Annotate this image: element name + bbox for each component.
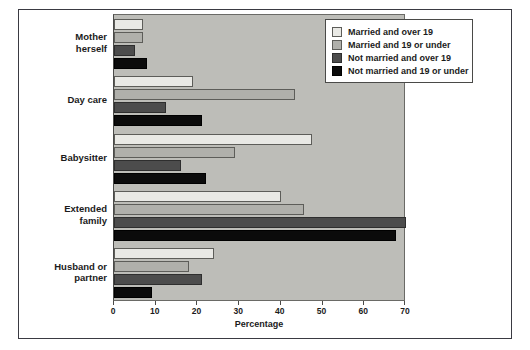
category-label: Extendedfamily	[17, 203, 107, 226]
x-tick-label: 40	[275, 306, 284, 316]
x-tick-label: 70	[400, 306, 409, 316]
bar	[114, 191, 281, 202]
category-axis-labels: MotherherselfDay careBabysitterExtendedf…	[14, 14, 107, 301]
x-tick-mark	[363, 301, 364, 305]
bar	[114, 173, 206, 184]
x-tick-mark	[404, 301, 405, 305]
bar	[114, 287, 152, 298]
bar	[114, 160, 181, 171]
legend-swatch-icon	[332, 27, 342, 37]
category-label: Motherherself	[17, 31, 107, 54]
bar	[114, 147, 235, 158]
category-label: Day care	[17, 94, 107, 106]
x-tick-label: 0	[111, 306, 116, 316]
bar	[114, 89, 295, 100]
bar	[114, 45, 135, 56]
x-tick-mark	[196, 301, 197, 305]
legend-item: Married and over 19	[332, 25, 466, 38]
x-tick-label: 60	[359, 306, 368, 316]
legend-swatch-icon	[332, 66, 342, 76]
legend-label: Not married and over 19	[348, 53, 451, 63]
x-tick-label: 20	[192, 306, 201, 316]
bar	[114, 217, 406, 228]
chart-figure: MotherherselfDay careBabysitterExtendedf…	[0, 0, 530, 350]
bar	[114, 76, 193, 87]
bar	[114, 261, 189, 272]
legend-swatch-icon	[332, 53, 342, 63]
legend-label: Married and over 19	[348, 27, 433, 37]
bar	[114, 204, 304, 215]
x-tick-mark	[238, 301, 239, 305]
x-tick-mark	[113, 301, 114, 305]
bar	[114, 134, 312, 145]
legend-item: Not married and over 19	[332, 51, 466, 64]
x-tick-label: 50	[317, 306, 326, 316]
bar	[114, 32, 143, 43]
bar	[114, 230, 396, 241]
bar	[114, 248, 214, 259]
x-tick-mark	[280, 301, 281, 305]
bar	[114, 274, 202, 285]
bar	[114, 102, 166, 113]
bar	[114, 58, 147, 69]
legend-label: Not married and 19 or under	[348, 66, 469, 76]
legend: Married and over 19 Married and 19 or un…	[325, 19, 473, 83]
x-tick-label: 10	[150, 306, 159, 316]
legend-item: Not married and 19 or under	[332, 64, 466, 77]
x-tick-mark	[322, 301, 323, 305]
bar	[114, 19, 143, 30]
x-axis-title: Percentage	[113, 319, 405, 329]
legend-label: Married and 19 or under	[348, 40, 451, 50]
category-label: Babysitter	[17, 152, 107, 164]
bar	[114, 115, 202, 126]
category-label: Husband orpartner	[17, 261, 107, 284]
x-tick-mark	[155, 301, 156, 305]
legend-swatch-icon	[332, 40, 342, 50]
legend-item: Married and 19 or under	[332, 38, 466, 51]
x-tick-label: 30	[233, 306, 242, 316]
